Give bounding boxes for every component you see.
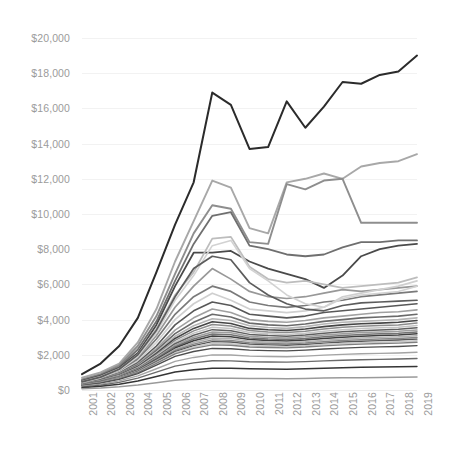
y-tick-label: $0 [58,384,70,396]
x-tick-label: 2006 [180,392,192,416]
x-tick-label: 2019 [422,392,434,416]
y-tick-label: $6,000 [37,278,70,290]
x-tick-label: 2002 [105,392,117,416]
y-tick-label: $16,000 [31,102,70,114]
x-tick-label: 2012 [291,392,303,416]
y-tick-label: $20,000 [31,32,70,44]
y-axis: $20,000$18,000$16,000$14,000$12,000$10,0… [0,0,78,454]
x-tick-label: 2016 [366,392,378,416]
x-tick-label: 2001 [87,392,99,416]
x-tick-label: 2010 [254,392,266,416]
y-tick-label: $12,000 [31,173,70,185]
line-chart: $20,000$18,000$16,000$14,000$12,000$10,0… [0,0,456,454]
x-tick-label: 2007 [198,392,210,416]
x-tick-label: 2005 [161,392,173,416]
y-tick-label: $8,000 [37,243,70,255]
y-tick-label: $4,000 [37,314,70,326]
y-tick-label: $14,000 [31,138,70,150]
plot-area [82,38,417,390]
x-tick-label: 2011 [273,392,285,415]
x-tick-label: 2008 [217,392,229,416]
x-tick-label: 2018 [403,392,415,416]
y-tick-label: $2,000 [37,349,70,361]
plot-svg [82,38,417,390]
y-tick-label: $10,000 [31,208,70,220]
x-tick-label: 2004 [142,392,154,416]
x-tick-label: 2017 [384,392,396,416]
x-tick-label: 2009 [235,392,247,416]
series-group [82,56,417,389]
x-tick-label: 2015 [347,392,359,416]
x-tick-label: 2003 [124,392,136,416]
y-tick-label: $18,000 [31,67,70,79]
x-tick-label: 2013 [310,392,322,416]
x-axis: 2001200220032004200520062007200820092010… [82,392,417,452]
x-tick-label: 2014 [328,392,340,416]
